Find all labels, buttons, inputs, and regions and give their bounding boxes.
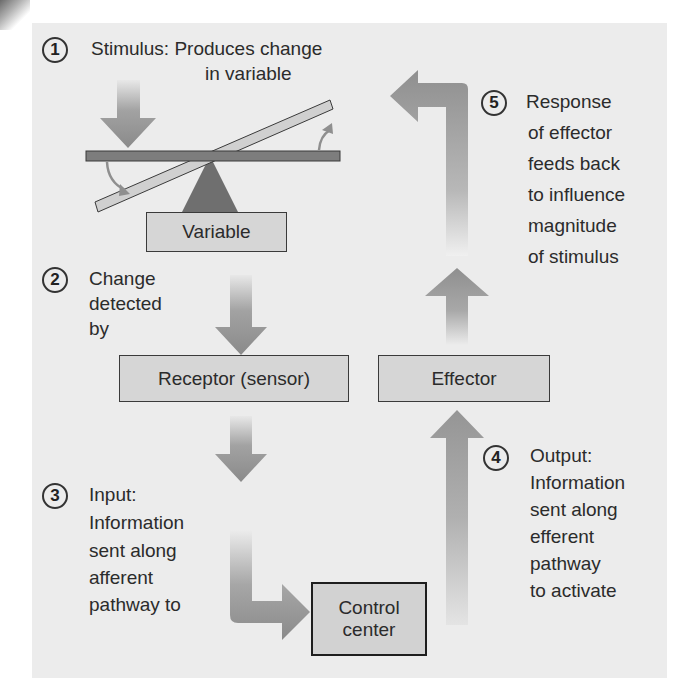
step-1-text-line2: in variable	[205, 62, 292, 86]
step-4-text-line3: sent along	[530, 498, 618, 522]
control-center-label-line2: center	[343, 619, 396, 641]
feedback-arrow	[390, 70, 468, 256]
step-3-text-line2: Information	[89, 511, 184, 535]
control-center-label-line1: Control	[338, 597, 399, 619]
step-3-text-line5: pathway to	[89, 593, 181, 617]
step-4-text-line1: Output:	[530, 444, 592, 468]
effector-box: Effector	[378, 355, 550, 402]
step-4-text-line4: efferent	[530, 525, 594, 549]
effector-up-arrow	[425, 268, 489, 345]
input-arrow	[215, 416, 310, 640]
step-5-text-line4: to influence	[528, 183, 625, 207]
stimulus-arrow	[100, 80, 156, 148]
step-4-text-line2: Information	[530, 471, 625, 495]
step-5-text-line6: of stimulus	[528, 245, 619, 269]
control-center-box: Control center	[311, 582, 427, 656]
step-5-badge: 5	[481, 90, 507, 116]
step-3-text-line3: sent along	[89, 539, 177, 563]
step-5-text-line5: magnitude	[528, 214, 617, 238]
receptor-box: Receptor (sensor)	[119, 355, 349, 402]
arrow-to-receptor	[215, 275, 267, 355]
variable-box: Variable	[146, 212, 287, 252]
step-5-text-line2: of effector	[528, 121, 612, 145]
step-5-text-line1: Response	[526, 90, 612, 114]
step-2-text-line1: Change	[89, 267, 156, 291]
step-3-text-line4: afferent	[89, 566, 153, 590]
step-2-text-line3: by	[89, 317, 109, 341]
step-4-text-line6: to activate	[530, 579, 617, 603]
step-2-badge: 2	[42, 267, 68, 293]
output-arrow	[430, 410, 484, 625]
step-4-badge: 4	[483, 445, 509, 471]
step-3-text-line1: Input:	[89, 483, 137, 507]
step-1-text-line1: Stimulus: Produces change	[91, 37, 322, 61]
step-3-badge: 3	[42, 483, 68, 509]
step-2-text-line2: detected	[89, 292, 162, 316]
step-1-badge: 1	[42, 37, 68, 63]
step-5-text-line3: feeds back	[528, 152, 620, 176]
step-4-text-line5: pathway	[530, 552, 601, 576]
